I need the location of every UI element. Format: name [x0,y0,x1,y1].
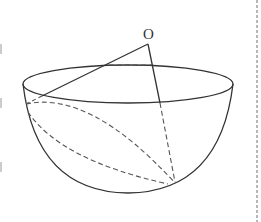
hemisphere-diagram: O [0,0,261,222]
inner-arc-lower [28,112,168,184]
inner-arc-upper [26,102,175,183]
bowl-outline [23,84,233,193]
rod-right-hidden [160,103,175,182]
rod-right-solid [148,44,160,103]
point-o-label: O [143,26,154,42]
rim-ellipse [23,65,233,103]
